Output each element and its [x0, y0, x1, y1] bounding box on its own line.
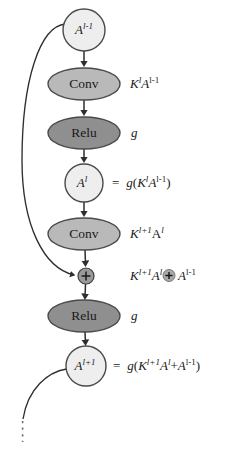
- node-relu-2[interactable]: Relu: [48, 300, 120, 332]
- nodes-layer: Al-1 Conv Relu Al: [48, 9, 120, 386]
- node-a-prev[interactable]: Al-1: [63, 9, 105, 51]
- node-conv-2[interactable]: Conv: [48, 218, 120, 250]
- side-labels-layer: KlAl-1 g =g(KlAl-1) Kl+1Al Kl+1Al: [112, 75, 200, 373]
- edge-relu2-anext: [85, 332, 86, 344]
- label-add-right: Al-1: [177, 267, 196, 283]
- outgoing-connection: [23, 369, 67, 419]
- node-relu-1-label: Relu: [71, 125, 97, 140]
- edge-conv2-add: [85, 250, 86, 265]
- node-conv-2-label: Conv: [69, 226, 99, 241]
- label-add-left: Kl+1Al: [129, 267, 163, 283]
- label-a-next: =g(Kl+1Al+Al-1): [113, 357, 200, 373]
- node-add[interactable]: [78, 268, 94, 284]
- label-a-cur: =g(KlAl-1): [112, 174, 171, 190]
- edge-add-relu2: [85, 284, 86, 298]
- label-add: Kl+1Al Al-1: [129, 267, 196, 283]
- node-relu-1[interactable]: Relu: [48, 117, 120, 149]
- node-conv-1[interactable]: Conv: [48, 68, 120, 100]
- label-conv-1: KlAl-1: [129, 75, 159, 91]
- diagram-canvas: Al-1 Conv Relu Al: [0, 0, 232, 465]
- label-relu-2: g: [131, 308, 138, 323]
- node-conv-1-label: Conv: [69, 76, 99, 91]
- label-conv-2: Kl+1Al: [129, 225, 164, 241]
- residual-block-diagram: Al-1 Conv Relu Al: [0, 0, 232, 465]
- node-a-next[interactable]: Al+1: [66, 346, 106, 386]
- node-relu-2-label: Relu: [71, 308, 97, 323]
- node-a-cur[interactable]: Al: [65, 164, 103, 202]
- label-relu-1: g: [131, 125, 138, 140]
